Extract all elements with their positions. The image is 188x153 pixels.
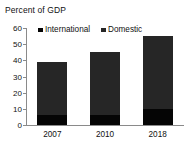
y-axis-tick-label: 30 — [13, 72, 22, 81]
y-axis-tick-label: 0 — [18, 121, 22, 130]
y-axis-tick-label: 40 — [13, 56, 22, 65]
bar-segment-international[interactable] — [37, 115, 67, 125]
bar-segment-international[interactable] — [90, 115, 120, 125]
bar-group — [143, 28, 173, 125]
bar-group — [90, 28, 120, 125]
x-axis-tick-label: 2007 — [43, 130, 61, 139]
y-axis-tick-labels: 0102030405060 — [0, 0, 22, 153]
y-axis-tick-label: 20 — [13, 88, 22, 97]
plot-area — [26, 28, 184, 125]
x-axis-tick-label: 2010 — [96, 130, 114, 139]
bar-segment-domestic[interactable] — [90, 52, 120, 115]
y-axis-tick-label: 10 — [13, 104, 22, 113]
y-axis-tick-label: 50 — [13, 40, 22, 49]
bar-stack[interactable] — [143, 36, 173, 125]
x-axis-line — [26, 125, 184, 126]
bar-segment-domestic[interactable] — [37, 62, 67, 115]
y-axis-tick-label: 60 — [13, 24, 22, 33]
bar-segment-international[interactable] — [143, 109, 173, 125]
bar-group — [37, 28, 67, 125]
chart-container: Percent of GDP International Domestic 01… — [0, 0, 188, 153]
bar-stack[interactable] — [37, 62, 67, 125]
bar-segment-domestic[interactable] — [143, 36, 173, 109]
x-axis-tick-label: 2018 — [149, 130, 167, 139]
bar-stack[interactable] — [90, 52, 120, 125]
